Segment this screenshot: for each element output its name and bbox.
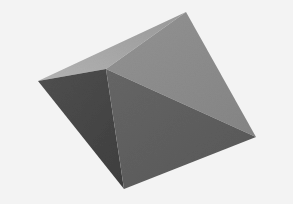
image-canvas bbox=[0, 0, 293, 204]
pyramid-scene bbox=[0, 0, 293, 204]
